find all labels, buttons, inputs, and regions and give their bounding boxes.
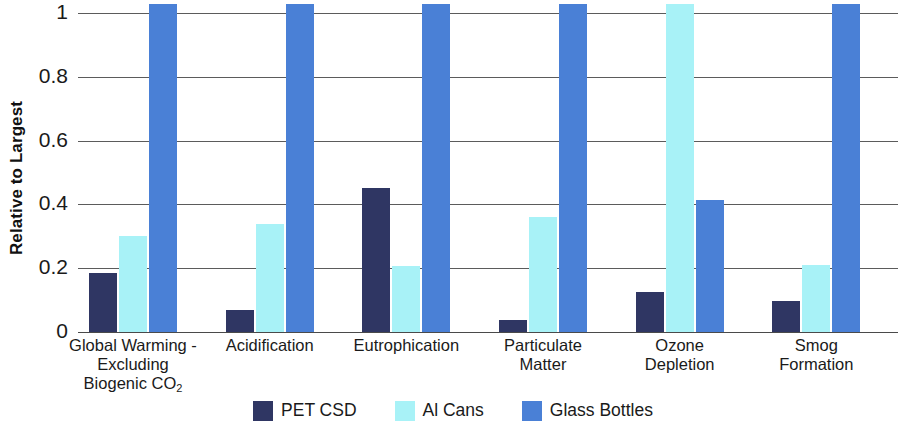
bar-chart: Relative to Largest 00.20.40.60.81 Globa… <box>0 0 906 430</box>
y-tick-label-0-4: 0.4 <box>8 192 68 213</box>
x-axis-label: SmogFormation <box>726 336 906 374</box>
bar <box>499 320 527 332</box>
bar <box>149 4 177 332</box>
legend-swatch-icon <box>522 401 542 421</box>
legend-label: PET CSD <box>281 400 357 421</box>
bar <box>89 273 117 332</box>
x-axis-label-line: Biogenic CO2 <box>43 374 223 395</box>
legend-label: Glass Bottles <box>550 400 653 421</box>
chart-legend: PET CSDAl CansGlass Bottles <box>0 400 906 421</box>
bar <box>802 265 830 332</box>
x-axis-category-labels: Global Warming -ExcludingBiogenic CO2Aci… <box>78 336 898 398</box>
legend-item[interactable]: Glass Bottles <box>522 400 653 421</box>
legend-swatch-icon <box>253 401 273 421</box>
bar <box>422 4 450 332</box>
x-axis-label-line: Smog <box>726 336 906 355</box>
bar <box>772 301 800 332</box>
bar <box>119 236 147 332</box>
bar <box>636 292 664 333</box>
legend-label: Al Cans <box>423 400 484 421</box>
y-tick-label-1: 1 <box>8 1 68 22</box>
bar <box>226 310 254 332</box>
bar <box>529 217 557 332</box>
bar <box>832 4 860 332</box>
y-axis-title: Relative to Largest <box>7 83 27 273</box>
bar <box>362 188 390 332</box>
bar <box>696 200 724 332</box>
y-tick-label-0-2: 0.2 <box>8 256 68 277</box>
bar <box>392 266 420 332</box>
x-axis-label-line: Excluding <box>43 355 223 374</box>
legend-swatch-icon <box>395 401 415 421</box>
bars-layer <box>78 13 898 332</box>
bar <box>559 4 587 332</box>
bar <box>286 4 314 332</box>
bar <box>666 4 694 332</box>
plot-area <box>78 13 898 332</box>
legend-item[interactable]: PET CSD <box>253 400 357 421</box>
bar <box>256 224 284 332</box>
legend-item[interactable]: Al Cans <box>395 400 484 421</box>
x-axis-label-line: Formation <box>726 355 906 374</box>
y-tick-label-0-6: 0.6 <box>8 129 68 150</box>
subscript: 2 <box>176 382 182 394</box>
gridline-0 <box>78 332 898 333</box>
y-tick-label-0-8: 0.8 <box>8 65 68 86</box>
